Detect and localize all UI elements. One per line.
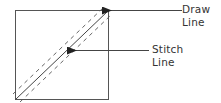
draw-line-diagonal (16, 11, 109, 100)
draw-line-label: Draw Line (182, 3, 210, 29)
draw-label-line1: Draw (182, 3, 210, 16)
stitch-line-lower (20, 15, 111, 102)
stitch-label-line1: Stitch (152, 43, 183, 56)
stitch-line-label: Stitch Line (152, 43, 183, 69)
stitch-label-line2: Line (152, 56, 183, 69)
draw-label-line2: Line (182, 16, 210, 29)
